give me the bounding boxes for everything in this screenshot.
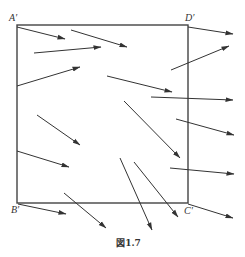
vector-arrow (151, 97, 233, 100)
vector-arrow (64, 193, 106, 228)
label-b-prime: B′ (11, 205, 19, 215)
arrow-group (17, 27, 234, 230)
vector-arrow (17, 27, 65, 39)
vector-arrow (134, 162, 178, 217)
vector-arrow (18, 204, 66, 214)
vector-arrow (188, 204, 233, 218)
vector-arrow (124, 101, 180, 158)
vector-arrow (120, 158, 152, 230)
vector-arrow (188, 27, 233, 34)
label-d-prime: D′ (185, 13, 194, 23)
vector-arrow (17, 67, 80, 86)
vector-arrow (17, 151, 69, 167)
square-a-d-c-b (17, 25, 188, 203)
vector-arrow (170, 168, 234, 174)
vector-arrow (171, 46, 229, 70)
vector-arrow (107, 76, 172, 92)
vector-arrow (37, 115, 80, 145)
figure-1-7: A′ D′ B′ C′ 図1.7 (0, 0, 245, 257)
label-c-prime: C′ (184, 206, 193, 216)
vector-arrow (176, 119, 234, 135)
vector-arrow (71, 30, 127, 47)
figure-caption: 図1.7 (0, 236, 245, 249)
vector-arrow (34, 47, 101, 53)
label-a-prime: A′ (9, 13, 17, 23)
vector-field-diagram (0, 0, 245, 257)
